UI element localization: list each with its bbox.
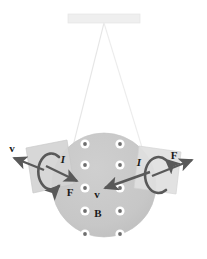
label-current-right: I <box>136 156 142 168</box>
field-out-of-page-dot <box>80 229 89 238</box>
label-current-left: I <box>60 153 66 165</box>
field-out-of-page-dot <box>115 139 124 148</box>
field-out-of-page-dot <box>80 183 89 192</box>
label-force-right: F <box>171 149 178 161</box>
field-out-of-page-dot <box>80 206 89 215</box>
field-out-of-page-dot <box>115 206 124 215</box>
field-out-of-page-dot <box>80 139 89 148</box>
ceiling-support-bar <box>68 14 140 23</box>
label-force-left: F <box>67 186 74 198</box>
label-magnetic-field: B <box>94 207 102 219</box>
label-velocity-right: v <box>94 188 100 200</box>
suspension-string-left <box>72 23 104 150</box>
physics-figure: v I F I F v B <box>0 0 207 259</box>
label-velocity-left: v <box>9 142 15 154</box>
figure-canvas: v I F I F v B <box>0 0 207 259</box>
field-out-of-page-dot <box>115 160 124 169</box>
field-out-of-page-dot <box>115 229 124 238</box>
field-out-of-page-dot <box>80 160 89 169</box>
